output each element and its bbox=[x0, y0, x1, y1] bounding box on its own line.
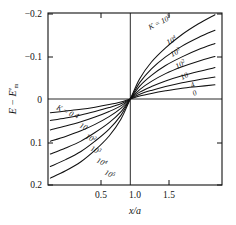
x-tick-label: 1.5 bbox=[163, 190, 175, 200]
y-tick-label: −0.1 bbox=[25, 52, 42, 62]
figure-container: −0.2−0.100.10.20.51.01.5 K = 10510410310… bbox=[0, 0, 236, 225]
chart-background bbox=[0, 0, 236, 225]
y-tick-label: −0.2 bbox=[25, 9, 42, 19]
x-axis-title: x/a bbox=[128, 205, 141, 216]
y-tick-label: 0 bbox=[37, 95, 42, 105]
y-tick-label: 0.2 bbox=[30, 180, 42, 190]
x-tick-label: 1.0 bbox=[129, 190, 141, 200]
chart-svg: −0.2−0.100.10.20.51.01.5 K = 10510410310… bbox=[0, 0, 236, 225]
x-tick-label: 0.5 bbox=[95, 190, 107, 200]
y-tick-label: 0.1 bbox=[30, 138, 42, 148]
